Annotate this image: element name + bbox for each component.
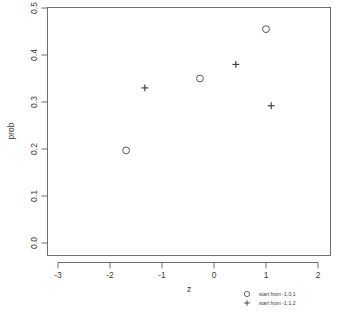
legend-item-1: start from -1,1,2 bbox=[244, 300, 296, 306]
x-tick-label: -1 bbox=[158, 270, 166, 280]
plot-canvas: 0.00.10.20.30.40.5 -3-2-1012 prob z star… bbox=[0, 0, 338, 314]
x-tick-label: -3 bbox=[54, 270, 62, 280]
legend-label: start from -1,0,1 bbox=[259, 291, 296, 297]
plot-frame bbox=[48, 8, 331, 256]
legend: start from -1,0,1start from -1,1,2 bbox=[244, 291, 296, 306]
x-tick-label: 2 bbox=[316, 270, 321, 280]
y-axis-title: prob bbox=[6, 122, 16, 139]
legend-item-0: start from -1,0,1 bbox=[244, 291, 295, 297]
y-tick-label: 0.1 bbox=[29, 190, 39, 202]
x-tick-label: 0 bbox=[212, 270, 217, 280]
y-tick-label: 0.3 bbox=[29, 96, 39, 108]
data-series-layer bbox=[123, 26, 275, 154]
data-point-circle bbox=[263, 26, 270, 33]
x-tick-label: 1 bbox=[264, 270, 269, 280]
y-axis: 0.00.10.20.30.40.5 bbox=[29, 2, 48, 249]
y-tick-label: 0.4 bbox=[29, 49, 39, 61]
x-tick-label: -2 bbox=[106, 270, 114, 280]
scatter-plot-figure: 0.00.10.20.30.40.5 -3-2-1012 prob z star… bbox=[0, 0, 338, 314]
y-tick-label: 0.2 bbox=[29, 143, 39, 155]
legend-label: start from -1,1,2 bbox=[259, 300, 296, 306]
series-1 bbox=[141, 61, 274, 109]
y-tick-label: 0.0 bbox=[29, 237, 39, 249]
y-tick-label: 0.5 bbox=[29, 2, 39, 14]
data-point-circle bbox=[123, 147, 130, 154]
data-point-circle bbox=[197, 75, 204, 82]
x-axis-title: z bbox=[187, 284, 191, 294]
legend-marker-circle bbox=[244, 291, 249, 296]
panel-border bbox=[48, 8, 331, 256]
x-axis: -3-2-1012 bbox=[54, 263, 320, 281]
